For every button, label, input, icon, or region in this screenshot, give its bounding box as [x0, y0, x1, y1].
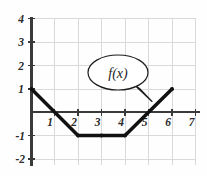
function-label-callout: f(x): [88, 55, 152, 102]
y-tick-label-neg1: -1: [15, 130, 25, 142]
y-tick-label-3: 3: [17, 36, 24, 48]
vertex-marker-mid: [100, 134, 104, 138]
callout-tail: [134, 85, 152, 102]
graph-figure: 4 3 2 1 -1 -2 1 2 3 4 5 6 7: [0, 0, 207, 176]
vertex-marker-min-right: [123, 134, 127, 138]
vertex-marker-end: [170, 87, 174, 91]
vertex-marker-min-left: [76, 134, 80, 138]
vertex-marker-start: [30, 87, 34, 91]
x-tick-label-4: 4: [117, 116, 124, 128]
y-tick-label-neg2: -2: [15, 153, 25, 165]
y-tick-label-4: 4: [17, 13, 24, 25]
x-tick-label-6: 6: [165, 116, 171, 128]
y-tick-label-1: 1: [18, 83, 24, 95]
x-tick-label-7: 7: [189, 116, 196, 128]
axes: [30, 17, 200, 166]
x-tick-label-2: 2: [70, 116, 77, 128]
callout-label-text: f(x): [108, 66, 128, 82]
x-tick-label-1: 1: [47, 116, 53, 128]
y-tick-label-2: 2: [17, 60, 24, 72]
function-graph-svg: 4 3 2 1 -1 -2 1 2 3 4 5 6 7: [0, 0, 207, 176]
y-axis-tick-labels: 4 3 2 1 -1 -2: [15, 13, 25, 166]
x-tick-label-3: 3: [94, 116, 101, 128]
